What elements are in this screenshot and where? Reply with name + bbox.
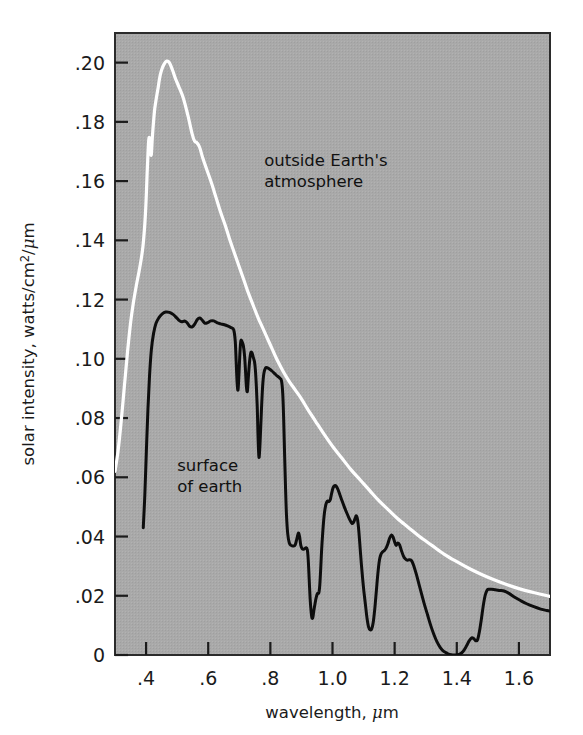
svg-text:solar intensity, watts/cm2/μm: solar intensity, watts/cm2/μm xyxy=(18,223,38,466)
y-axis-tick-labels: 0.02.04.06.08.10.12.14.16.18.20 xyxy=(75,52,105,666)
y-tick-label: .10 xyxy=(75,348,105,370)
x-axis-tick-labels: .4.6.81.01.21.41.6 xyxy=(137,667,534,689)
svg-text:wavelength, μm: wavelength, μm xyxy=(265,703,398,722)
y-tick-label: .02 xyxy=(75,585,105,607)
x-tick-label: 1.6 xyxy=(504,667,534,689)
y-tick-label: .20 xyxy=(75,52,105,74)
solar-spectrum-chart: 0.02.04.06.08.10.12.14.16.18.20 .4.6.81.… xyxy=(0,0,583,735)
y-tick-label: .06 xyxy=(75,466,105,488)
annotation-line: surface xyxy=(177,456,238,475)
plot-background xyxy=(115,33,550,655)
x-tick-label: 1.2 xyxy=(380,667,410,689)
x-axis-title-text: wavelength, xyxy=(265,703,372,722)
y-tick-label: .04 xyxy=(75,526,105,548)
y-axis-title-post: m xyxy=(19,223,38,239)
annotation-line: atmosphere xyxy=(264,172,363,191)
y-tick-label: .12 xyxy=(75,289,105,311)
y-tick-label: 0 xyxy=(93,644,105,666)
figure-container: 0.02.04.06.08.10.12.14.16.18.20 .4.6.81.… xyxy=(0,0,583,735)
x-tick-label: .4 xyxy=(137,667,155,689)
annotation-line: of earth xyxy=(177,477,242,496)
x-axis-title-mu: μ xyxy=(372,703,383,722)
y-axis-title-text: solar intensity, watts/cm xyxy=(19,262,38,465)
x-axis-title: wavelength, μm xyxy=(265,703,398,722)
x-tick-label: .6 xyxy=(199,667,217,689)
y-axis-title-mu: μ xyxy=(19,239,38,250)
x-tick-label: 1.0 xyxy=(317,667,347,689)
annotation-line: outside Earth's xyxy=(264,151,387,170)
x-tick-label: .8 xyxy=(261,667,279,689)
y-tick-label: .18 xyxy=(75,111,105,133)
y-tick-label: .14 xyxy=(75,229,105,251)
y-tick-label: .08 xyxy=(75,407,105,429)
y-axis-title: solar intensity, watts/cm2/μm xyxy=(18,223,38,466)
x-tick-label: 1.4 xyxy=(442,667,472,689)
y-tick-label: .16 xyxy=(75,170,105,192)
y-axis-title-sup: 2 xyxy=(18,255,32,262)
x-axis-title-unit: m xyxy=(383,703,399,722)
